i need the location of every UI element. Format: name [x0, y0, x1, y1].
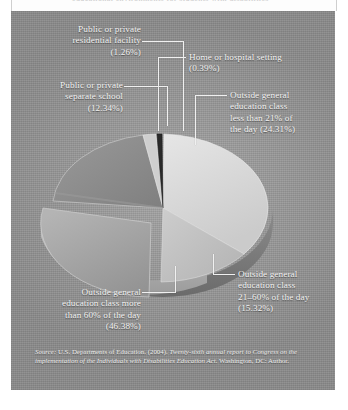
leader-separate-school-h	[124, 86, 168, 87]
label-21-60-line1: Outside general	[238, 269, 334, 280]
label-more-60-line2: education class more	[19, 298, 141, 309]
figure-container: educational environments for students wi…	[0, 0, 348, 410]
chart-panel: Public or private residential facility (…	[11, 11, 335, 390]
caption-remnant-text: educational environments for students wi…	[72, 0, 282, 6]
leader-less-21-h	[195, 95, 227, 96]
pie-slice-more-than-60	[41, 208, 151, 297]
label-21-60-line3: 21–60% of the day	[238, 292, 334, 303]
figure-top-strip: educational environments for students wi…	[11, 0, 337, 11]
label-separate-school-line2: separate school	[23, 91, 123, 102]
source-part2: Washington, DC: Author.	[217, 357, 288, 364]
label-home-hospital-line2: (0.39%)	[189, 63, 324, 74]
label-more-60-line4: (46.38%)	[19, 321, 141, 332]
leader-home-hospital-h	[158, 57, 186, 58]
label-21-60-line4: (15.32%)	[238, 303, 334, 314]
leader-more-60-v	[175, 266, 176, 293]
label-less-21-line2: education class	[230, 101, 330, 112]
leader-residential-v	[183, 41, 184, 131]
source-label: Source:	[35, 348, 56, 355]
leader-home-hospital-v	[158, 57, 159, 131]
label-less-21-line3: less than 21% of	[230, 113, 330, 124]
leader-21-60-v	[213, 254, 214, 275]
pie-slice-more-than-60-group	[41, 208, 151, 297]
label-home-hospital-line1: Home or hospital setting	[189, 52, 324, 63]
leader-residential-h	[142, 41, 184, 42]
label-more-than-60: Outside general education class more tha…	[19, 287, 141, 333]
label-less-than-21: Outside general education class less tha…	[230, 90, 330, 136]
label-less-21-line1: Outside general	[230, 90, 330, 101]
leader-separate-school-v	[167, 86, 168, 126]
label-more-60-line1: Outside general	[19, 287, 141, 298]
leader-21-60-h	[213, 274, 235, 275]
leader-less-21-v	[195, 95, 196, 145]
source-citation: Source: U.S. Departments of Education. (…	[35, 347, 321, 365]
source-part1: U.S. Departments of Education. (2004).	[56, 348, 169, 355]
label-separate-school-line3: (12.34%)	[23, 103, 123, 114]
label-home-or-hospital: Home or hospital setting (0.39%)	[189, 52, 324, 75]
leader-more-60-h	[142, 292, 176, 293]
label-21-to-60: Outside general education class 21–60% o…	[238, 269, 334, 315]
label-separate-school-line1: Public or private	[23, 80, 123, 91]
label-more-60-line3: than 60% of the day	[19, 310, 141, 321]
label-21-60-line2: education class	[238, 280, 334, 291]
label-residential-line1: Public or private	[23, 24, 141, 35]
label-less-21-line4: the day (24.31%)	[230, 124, 330, 135]
label-separate-school: Public or private separate school (12.34…	[23, 80, 123, 114]
label-residential-line3: (1.26%)	[23, 47, 141, 58]
label-residential-line2: residential facility	[23, 35, 141, 46]
label-residential-facility: Public or private residential facility (…	[23, 24, 141, 58]
